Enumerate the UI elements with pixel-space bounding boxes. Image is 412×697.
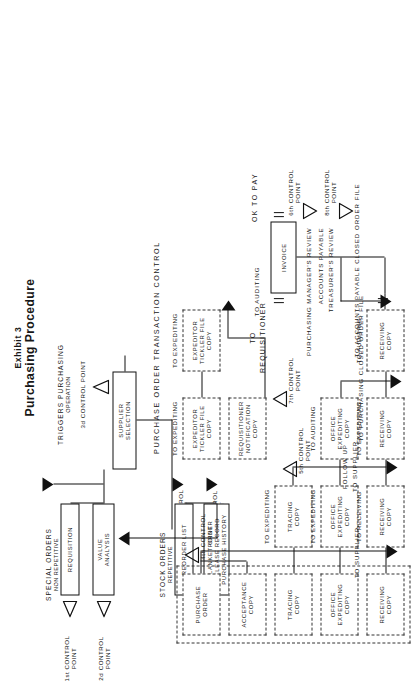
box-requisition: REQUISITION: [60, 503, 79, 595]
follow-up-arrow: [386, 460, 397, 474]
copy-receiving-4: RECEIVING COPY: [366, 309, 404, 371]
connector-tracing2-out: [292, 467, 293, 485]
special-orders-subheading: NON REPETITIVE: [52, 499, 59, 629]
copy-tracing-2-label: TRACING COPY: [286, 501, 300, 532]
control-point-7-label: 7th CONTROL POINT: [286, 345, 301, 415]
special-orders-heading: SPECIAL ORDERS: [44, 499, 51, 629]
connector-acceptance-out: [246, 561, 247, 573]
connector-requisitioner-h: [264, 337, 265, 397]
stock-orders-arrow-2: [206, 477, 217, 491]
control-point-8-label: 8th CONTROL POINT: [322, 157, 337, 227]
to-supplier-label: TO SUPPLIER: [352, 507, 359, 597]
copy-expeditor-tickler-2-label: EXPEDITOR TICKLER FILE COPY: [191, 317, 212, 364]
control-point-2-left-marker: [96, 600, 111, 617]
exhibit-label: Exhibit 3: [14, 237, 21, 457]
copy-receiving-2: RECEIVING COPY: [366, 485, 404, 547]
control-point-1-left-marker: [62, 600, 77, 617]
connector-purch-closed-out: [340, 381, 341, 397]
control-point-5-marker: [282, 460, 297, 477]
copy-expeditor-tickler: EXPEDITOR TICKLER FILE COPY: [182, 397, 220, 459]
route-expeditor-tickler-to-expediting: TO EXPEDITING: [170, 393, 177, 463]
stock-orders-heading: STOCK ORDERS: [158, 499, 165, 629]
route-expeditor-tickler-2-to-expediting: TO EXPEDITING: [170, 305, 177, 375]
connector-stock-out: [216, 503, 217, 538]
to-ap-closed-label: TO ACCOUNTS PAYABLE CLOSED ORDER FILE: [352, 217, 359, 357]
copy-requisitioner-notification: REQUISITIONER NOTIFICATION COPY: [228, 397, 266, 459]
control-point-2-left-label: 2d CONTROL POINT: [96, 625, 111, 691]
connector-ap-closed-in: [340, 257, 341, 301]
connector-requisitioner-arrowline: [227, 308, 228, 338]
copy-receiving-4-label: RECEIVING COPY: [378, 321, 392, 359]
purchasing-procedure-diagram: Exhibit 3 Purchasing Procedure 1st CONTR…: [0, 0, 412, 697]
purchasing-manager-review-label: PURCHASING MANAGER'S REVIEW: [304, 227, 311, 397]
route-tracing-to-expediting: TO EXPEDITING: [262, 481, 269, 551]
connector-ap-closed-trunk: [340, 300, 380, 301]
special-orders-flow-arrow: [42, 477, 53, 491]
follow-up-label: FOLLOW UP: [340, 421, 347, 511]
box-value-analysis: VALUE ANALYSIS: [92, 503, 114, 595]
control-point-6-label: 6th CONTROL POINT: [286, 157, 301, 227]
copies-group-outline: [176, 565, 410, 643]
copy-requisitioner-notification-label: REQUISITIONER NOTIFICATION COPY: [237, 401, 258, 456]
connector-invoice-join: [384, 257, 385, 293]
match-mark-invoice-left: [273, 298, 283, 303]
triggers-subheading: OPERATION: [64, 329, 71, 459]
route-invoice-to-auditing: TO AUDITING: [252, 251, 259, 331]
connector-po-out: [200, 551, 201, 573]
to-supplier-arrow: [386, 544, 397, 558]
control-point-1-left-label: 1st CONTROL POINT: [62, 625, 77, 691]
box-invoice-label: INVOICE: [280, 243, 287, 272]
connector-purch-closed-trunk: [340, 380, 390, 381]
connector-special-join: [70, 502, 103, 503]
ok-to-pay-label: OK TO PAY: [250, 137, 257, 257]
to-ap-closed-arrow: [380, 294, 391, 308]
box-supplier-selection-label: SUPPLIER SELECTION: [117, 400, 131, 439]
page-title: Purchasing Procedure: [26, 237, 33, 457]
copy-receiving-3-label: RECEIVING COPY: [378, 409, 392, 447]
connector-receiving-link: [385, 547, 386, 573]
connector-tickler-link: [201, 371, 202, 397]
connector-office-exped-link: [339, 547, 340, 573]
control-point-7-marker: [272, 390, 287, 407]
connector-supplier-out: [124, 355, 125, 371]
copy-expeditor-tickler-label: EXPEDITOR TICKLER FILE COPY: [191, 405, 212, 452]
box-supplier-selection: SUPPLIER SELECTION: [112, 371, 136, 469]
treasurer-review-label: TREASURER'S REVIEW: [326, 227, 333, 397]
to-purchasing-closed-arrow: [390, 374, 401, 388]
box-value-analysis-label: VALUE ANALYSIS: [96, 532, 110, 566]
box-requisition-label: REQUISITION: [66, 526, 73, 571]
connector-office-exped-link-2: [339, 459, 340, 485]
connector-receiving-link-3: [385, 371, 386, 397]
copy-receiving-2-label: RECEIVING COPY: [378, 497, 392, 535]
match-mark-invoice-right: [273, 212, 283, 217]
connector-po-acc-join: [200, 560, 246, 561]
control-point-5-label: 5th CONTROL POINT: [296, 415, 311, 485]
control-point-8-marker: [338, 202, 353, 219]
figure-canvas: Exhibit 3 Purchasing Procedure 1st CONTR…: [0, 0, 412, 697]
control-point-3-label: 3d CONTROL POINT: [78, 329, 85, 459]
control-point-4-marker: [184, 546, 199, 563]
control-point-3-marker: [92, 379, 109, 394]
copy-tracing-2: TRACING COPY: [274, 485, 312, 547]
accounts-payable-label: ACCOUNTS PAYABLE: [316, 227, 323, 397]
box-invoice: INVOICE: [270, 221, 296, 293]
connector-tracing-link: [293, 547, 294, 573]
connector-special-out: [103, 470, 104, 504]
transaction-control-heading: PURCHASE ORDER TRANSACTION CONTROL: [152, 237, 159, 457]
connector-requisitioner-v: [228, 337, 264, 338]
connector-special-vertical: [53, 483, 103, 484]
stock-orders-arrow-1: [172, 477, 183, 491]
copy-receiving-3: RECEIVING COPY: [366, 397, 404, 459]
stock-orders-feedback-arrow: [118, 531, 129, 545]
route-office-expediting-to-expediting: TO EXPEDITING: [308, 481, 315, 551]
connector-receiving-link-2: [385, 459, 386, 485]
triggers-heading: TRIGGERS PURCHASING: [56, 329, 63, 459]
copy-expeditor-tickler-2: EXPEDITOR TICKLER FILE COPY: [182, 309, 220, 371]
control-point-6-marker: [302, 202, 317, 219]
